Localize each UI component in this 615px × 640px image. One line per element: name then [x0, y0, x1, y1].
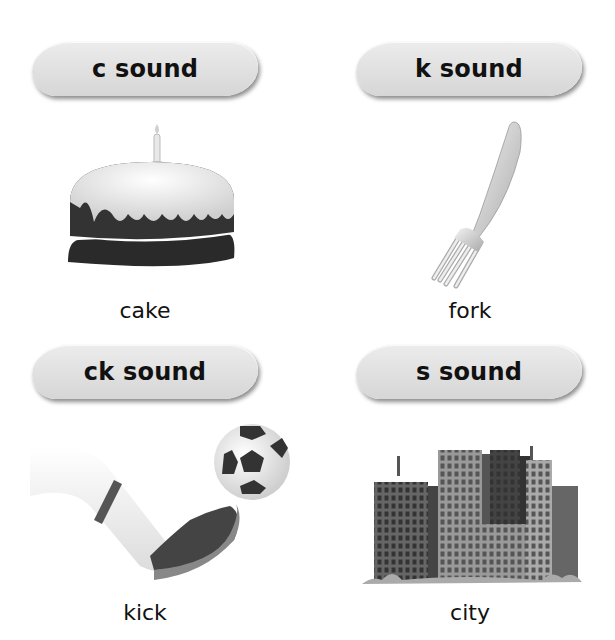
word-cake: cake	[45, 298, 245, 323]
heading-label: k sound	[415, 55, 523, 83]
s-sound-heading: s sound	[356, 345, 582, 399]
cake-icon	[60, 122, 240, 287]
k-sound-heading: k sound	[356, 42, 582, 96]
kick-icon	[30, 420, 300, 590]
heading-label: ck sound	[84, 358, 206, 386]
heading-label: c sound	[92, 55, 198, 83]
fork-icon	[410, 118, 540, 298]
word-kick: kick	[45, 600, 245, 625]
ck-sound-heading: ck sound	[32, 345, 258, 399]
word-fork: fork	[370, 298, 570, 323]
city-icon	[362, 446, 592, 586]
heading-label: s sound	[416, 358, 522, 386]
c-sound-heading: c sound	[32, 42, 258, 96]
word-city: city	[370, 600, 570, 625]
